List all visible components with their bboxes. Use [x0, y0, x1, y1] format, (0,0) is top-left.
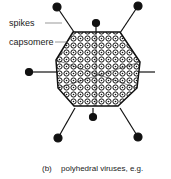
capsid: [56, 32, 140, 106]
caption-text: polyhedral viruses, e.g.: [61, 164, 143, 174]
capsomere-label: capsomere: [9, 37, 54, 47]
caption-marker: (b): [42, 164, 52, 174]
spikes-label: spikes: [9, 18, 35, 28]
